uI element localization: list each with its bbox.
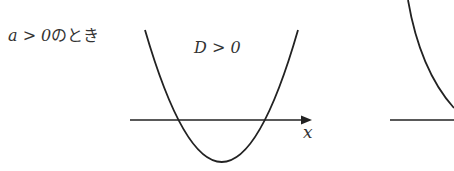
parabola-curve [145,30,298,162]
x-axis-arrowhead-icon [301,116,312,125]
second-parabola-curve [408,0,454,108]
diagram-canvas [0,0,454,171]
